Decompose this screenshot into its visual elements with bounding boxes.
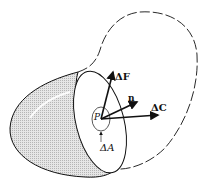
label-normal: n	[128, 94, 135, 103]
free-body-diagram: ΔF n ΔC P ΔA	[0, 0, 210, 190]
label-delta-c: ΔC	[151, 103, 167, 113]
label-point-p: P	[94, 113, 100, 122]
label-delta-f: ΔF	[115, 72, 130, 82]
diagram-drawing	[0, 0, 210, 190]
label-delta-a: ΔA	[100, 143, 114, 153]
